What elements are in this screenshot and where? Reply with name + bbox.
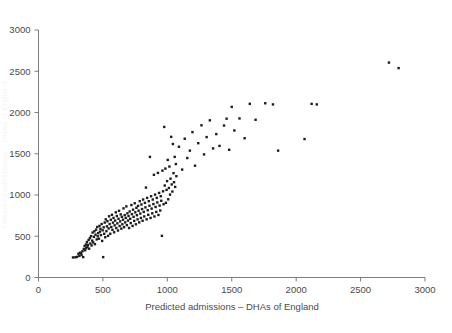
data-point <box>310 103 312 105</box>
data-point <box>123 226 125 228</box>
data-point <box>106 225 108 227</box>
data-point <box>397 67 399 69</box>
data-point <box>86 241 88 243</box>
data-point <box>78 255 80 257</box>
data-point <box>166 180 168 182</box>
y-tick-label: 500 <box>15 231 31 242</box>
data-point <box>172 172 174 174</box>
data-point <box>129 210 131 212</box>
data-point <box>136 218 138 220</box>
data-point <box>172 143 174 145</box>
data-point <box>154 206 156 208</box>
data-point <box>120 213 122 215</box>
data-point <box>165 202 167 204</box>
data-point <box>98 238 100 240</box>
data-point <box>127 215 129 217</box>
data-point <box>115 211 117 213</box>
data-point <box>233 129 235 131</box>
data-point <box>160 200 162 202</box>
data-point <box>108 223 110 225</box>
data-point <box>167 198 169 200</box>
data-point <box>191 131 193 133</box>
data-point <box>175 175 177 177</box>
data-point <box>157 172 159 174</box>
x-axis-title: Predicted admissions – DHAs of England <box>145 301 319 312</box>
data-point <box>152 198 154 200</box>
data-point <box>197 142 199 144</box>
data-point <box>158 192 160 194</box>
data-point <box>165 189 167 191</box>
data-point <box>148 200 150 202</box>
x-tick-label: 0 <box>36 284 41 295</box>
data-point <box>117 229 119 231</box>
data-point <box>130 204 132 206</box>
data-point <box>388 61 390 63</box>
x-tick-label: 1500 <box>221 284 242 295</box>
data-point <box>228 149 230 151</box>
data-point <box>105 230 107 232</box>
data-point <box>173 181 175 183</box>
data-point <box>121 216 123 218</box>
data-point <box>110 219 112 221</box>
data-point <box>122 219 124 221</box>
data-point <box>218 145 220 147</box>
data-point <box>153 215 155 217</box>
data-point <box>151 212 153 214</box>
data-point <box>113 224 115 226</box>
x-tick-label: 2000 <box>286 284 307 295</box>
data-point <box>171 183 173 185</box>
data-point <box>106 220 108 222</box>
x-tick-label: 2500 <box>350 284 371 295</box>
data-point <box>90 235 92 237</box>
data-point <box>161 235 163 237</box>
data-point <box>156 197 158 199</box>
data-point <box>154 193 156 195</box>
data-point <box>171 190 173 192</box>
data-point <box>127 219 129 221</box>
data-point <box>81 250 83 252</box>
y-tick-label: 2500 <box>9 66 30 77</box>
y-tick-label: 2000 <box>9 107 30 118</box>
data-point <box>103 233 105 235</box>
data-point <box>110 226 112 228</box>
data-point <box>203 153 205 155</box>
data-point <box>107 235 109 237</box>
data-point <box>254 119 256 121</box>
data-point <box>169 193 171 195</box>
data-point <box>126 224 128 226</box>
data-point <box>143 211 145 213</box>
data-point <box>99 228 101 230</box>
data-point <box>145 186 147 188</box>
data-point <box>112 217 114 219</box>
data-point <box>119 220 121 222</box>
data-point <box>140 217 142 219</box>
data-point <box>212 147 214 149</box>
data-point <box>162 203 164 205</box>
data-point <box>149 156 151 158</box>
data-point <box>225 117 227 119</box>
data-point <box>135 223 137 225</box>
data-point <box>277 149 279 151</box>
data-point <box>150 207 152 209</box>
data-point <box>173 156 175 158</box>
data-point <box>138 221 140 223</box>
data-point <box>249 103 251 105</box>
data-point <box>137 209 139 211</box>
data-point <box>132 208 134 210</box>
data-point <box>136 214 138 216</box>
data-point <box>111 229 113 231</box>
data-point <box>152 203 154 205</box>
data-point <box>107 227 109 229</box>
data-point <box>162 190 164 192</box>
data-point <box>100 223 102 225</box>
data-point <box>115 227 117 229</box>
data-point <box>140 203 142 205</box>
data-point <box>133 220 135 222</box>
data-point <box>94 243 96 245</box>
data-point <box>272 103 274 105</box>
data-point <box>99 230 101 232</box>
data-point <box>116 222 118 224</box>
data-point <box>168 165 170 167</box>
data-point <box>141 208 143 210</box>
data-point <box>167 159 169 161</box>
